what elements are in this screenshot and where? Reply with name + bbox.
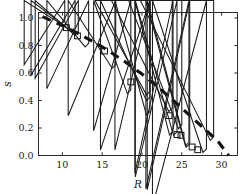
scatter-plot: 1015202530 0.00.20.40.60.81.0 R s [0, 0, 247, 194]
x-tick-label: 10 [56, 159, 68, 170]
x-tick-label: 15 [96, 159, 108, 170]
x-tick-label: 30 [216, 159, 228, 170]
y-tick-label: 0.0 [18, 150, 33, 161]
x-axis-label: R [133, 178, 142, 190]
chart-figure: 1015202530 0.00.20.40.60.81.0 R s [0, 0, 247, 194]
y-tick-label: 0.4 [18, 95, 33, 106]
square-marker [189, 144, 195, 150]
y-axis-label: s [1, 81, 13, 87]
square-marker [195, 147, 201, 153]
triangle-marker [112, 0, 173, 111]
x-tick-label: 25 [176, 159, 188, 170]
diamond-marker [94, 1, 131, 131]
y-tick-label: 0.2 [18, 122, 33, 133]
y-axis-ticks: 0.00.20.40.60.81.0 [18, 12, 237, 161]
